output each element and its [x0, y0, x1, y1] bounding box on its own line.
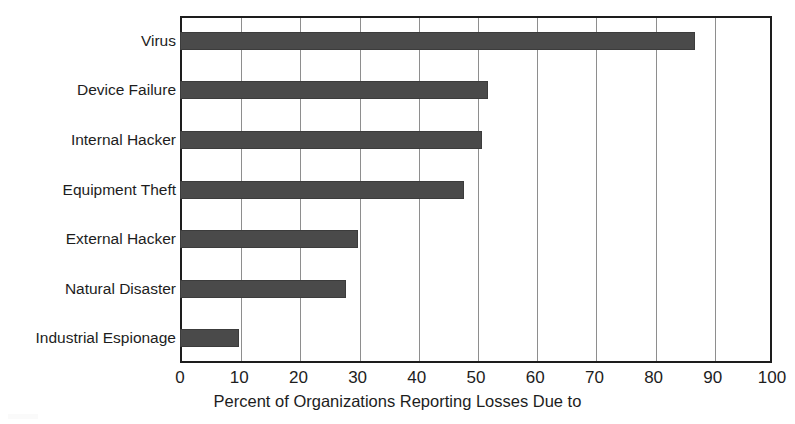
- x-tick-80: 80: [644, 368, 663, 388]
- bar-industrial-espionage: [180, 329, 239, 347]
- x-tick-20: 20: [289, 368, 308, 388]
- bar-fill: [180, 32, 695, 50]
- bar-equipment-theft: [180, 181, 464, 199]
- x-tick-100: 100: [758, 368, 786, 388]
- x-axis-tick-labels: 0102030405060708090100: [180, 368, 772, 390]
- bar-internal-hacker: [180, 131, 482, 149]
- x-tick-70: 70: [585, 368, 604, 388]
- x-tick-50: 50: [467, 368, 486, 388]
- x-tick-40: 40: [407, 368, 426, 388]
- bar-natural-disaster: [180, 280, 346, 298]
- chart-page: VirusDevice FailureInternal HackerEquipm…: [0, 0, 795, 424]
- category-label-virus: Virus: [0, 32, 176, 50]
- x-tick-90: 90: [703, 368, 722, 388]
- category-label-device-failure: Device Failure: [0, 81, 176, 99]
- category-axis-labels: VirusDevice FailureInternal HackerEquipm…: [0, 16, 176, 363]
- category-label-natural-disaster: Natural Disaster: [0, 280, 176, 298]
- bar-fill: [180, 181, 464, 199]
- x-axis-title: Percent of Organizations Reporting Losse…: [0, 392, 795, 411]
- bar-fill: [180, 131, 482, 149]
- bar-fill: [180, 230, 358, 248]
- bar-device-failure: [180, 81, 488, 99]
- x-tick-10: 10: [230, 368, 249, 388]
- category-label-external-hacker: External Hacker: [0, 230, 176, 248]
- category-label-industrial-espionage: Industrial Espionage: [0, 329, 176, 347]
- bar-external-hacker: [180, 230, 358, 248]
- x-tick-0: 0: [175, 368, 184, 388]
- x-tick-60: 60: [526, 368, 545, 388]
- category-label-equipment-theft: Equipment Theft: [0, 181, 176, 199]
- bar-virus: [180, 32, 695, 50]
- category-label-internal-hacker: Internal Hacker: [0, 131, 176, 149]
- bars-layer: [180, 16, 772, 363]
- bar-fill: [180, 81, 488, 99]
- bar-fill: [180, 280, 346, 298]
- bar-fill: [180, 329, 239, 347]
- x-tick-30: 30: [348, 368, 367, 388]
- scan-artifact: [8, 414, 38, 419]
